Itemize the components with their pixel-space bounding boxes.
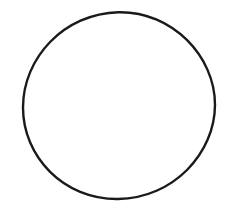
figure-svg	[0, 0, 232, 212]
canvas-background	[0, 0, 232, 212]
drawing-canvas	[0, 0, 232, 212]
